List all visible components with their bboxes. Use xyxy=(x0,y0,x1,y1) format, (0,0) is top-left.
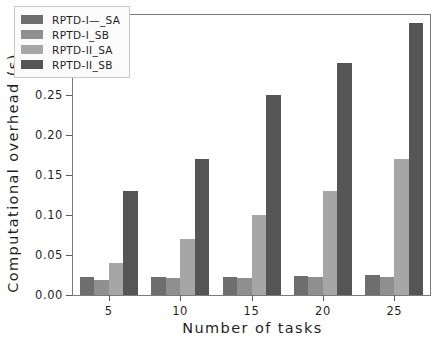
x-axis-tick xyxy=(109,295,110,301)
x-axis-tick-label: 20 xyxy=(315,304,331,318)
x-axis-tick-label: 10 xyxy=(172,304,188,318)
legend-item: RPTD-I_SB xyxy=(21,27,120,42)
bar-rptd-i-sa-10 xyxy=(151,277,166,295)
x-axis-tick-label: 25 xyxy=(386,304,402,318)
bar-rptd-i-sb-10 xyxy=(166,278,181,295)
y-axis-tick-label: 0.05 xyxy=(35,248,63,262)
bar-rptd-ii-sa-25 xyxy=(394,159,409,295)
x-axis-tick xyxy=(323,295,324,301)
y-axis-tick xyxy=(66,135,72,136)
y-axis-tick-label: 0.20 xyxy=(35,128,63,142)
bar-rptd-i-sa-25 xyxy=(365,275,380,295)
x-axis-label: Number of tasks xyxy=(72,320,433,336)
legend-swatch-icon xyxy=(21,60,43,69)
bar-rptd-ii-sa-10 xyxy=(180,239,195,295)
legend-swatch-icon xyxy=(21,30,43,39)
bar-rptd-i-sb-15 xyxy=(237,278,252,295)
x-axis-tick xyxy=(180,295,181,301)
bar-rptd-ii-sb-20 xyxy=(337,63,352,295)
bar-rptd-ii-sa-5 xyxy=(109,263,124,295)
chart-legend: RPTD-I—_SARPTD-I_SBRPTD-II_SARPTD-II_SB xyxy=(14,6,130,78)
bar-rptd-ii-sb-25 xyxy=(409,23,424,295)
bar-rptd-ii-sb-10 xyxy=(195,159,210,295)
bar-rptd-i-sb-5 xyxy=(94,280,109,295)
legend-label: RPTD-I—_SA xyxy=(52,14,120,26)
legend-item: RPTD-I—_SA xyxy=(21,12,120,27)
x-axis-tick xyxy=(252,295,253,301)
y-axis-tick-label: 0.00 xyxy=(35,288,63,302)
bar-rptd-ii-sb-15 xyxy=(266,95,281,295)
legend-label: RPTD-I_SB xyxy=(52,29,109,41)
y-axis-tick xyxy=(66,175,72,176)
bar-rptd-i-sb-20 xyxy=(308,277,323,295)
bar-rptd-ii-sa-20 xyxy=(323,191,338,295)
y-axis-tick xyxy=(66,295,72,296)
y-axis-tick xyxy=(66,255,72,256)
y-axis-tick-label: 0.10 xyxy=(35,208,63,222)
bar-rptd-i-sa-20 xyxy=(294,276,309,295)
bar-chart-figure: Computational overhead (s) 0.000.050.100… xyxy=(0,0,445,346)
x-axis-tick xyxy=(394,295,395,301)
bar-rptd-i-sa-15 xyxy=(223,277,238,295)
bar-rptd-ii-sa-15 xyxy=(252,215,267,295)
bar-rptd-ii-sb-5 xyxy=(123,191,138,295)
x-axis-tick-label: 15 xyxy=(244,304,260,318)
legend-item: RPTD-II_SB xyxy=(21,57,120,72)
y-axis-tick xyxy=(66,95,72,96)
bar-rptd-i-sb-25 xyxy=(380,277,395,295)
legend-label: RPTD-II_SA xyxy=(52,44,113,56)
legend-swatch-icon xyxy=(21,15,43,24)
legend-item: RPTD-II_SA xyxy=(21,42,120,57)
x-axis-tick-label: 5 xyxy=(105,304,113,318)
legend-swatch-icon xyxy=(21,45,43,54)
y-axis-tick-label: 0.25 xyxy=(35,88,63,102)
bar-rptd-i-sa-5 xyxy=(80,277,95,295)
legend-label: RPTD-II_SB xyxy=(52,59,113,71)
y-axis-tick-label: 0.15 xyxy=(35,168,63,182)
y-axis-tick xyxy=(66,215,72,216)
